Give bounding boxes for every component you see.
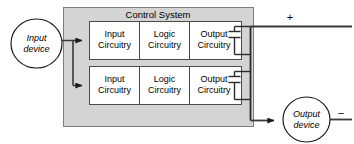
negative-terminal-label: −: [338, 107, 344, 119]
diagram-canvas: Control System Input Circuitry Logic Cir…: [0, 0, 354, 144]
block-logic-circuitry-1-line2: Circuitry: [148, 40, 181, 50]
positive-terminal-label: +: [287, 11, 293, 23]
channel-2-blocks: Input Circuitry Logic Circuitry Output C…: [90, 67, 242, 105]
input-device-label-line1: Input: [26, 33, 47, 43]
block-output-circuitry-2-line1: Output: [200, 74, 228, 84]
output-device-label-line1: Output: [293, 109, 321, 119]
block-input-circuitry-1-line1: Input: [104, 29, 125, 39]
output-device-label-line2: device: [293, 120, 319, 130]
block-logic-circuitry-2-line2: Circuitry: [148, 85, 181, 95]
block-output-circuitry-2-line2: Circuitry: [198, 85, 231, 95]
control-system-title: Control System: [126, 9, 191, 20]
control-system-diagram: Control System Input Circuitry Logic Cir…: [0, 0, 354, 144]
block-input-circuitry-2-line2: Circuitry: [98, 85, 131, 95]
block-output-circuitry-1-line1: Output: [200, 29, 228, 39]
block-input-circuitry-2-line1: Input: [104, 74, 125, 84]
block-logic-circuitry-2-line1: Logic: [154, 74, 176, 84]
input-device-label-line2: device: [23, 44, 49, 54]
block-output-circuitry-1-line2: Circuitry: [198, 40, 231, 50]
block-logic-circuitry-1-line1: Logic: [154, 29, 176, 39]
block-input-circuitry-1-line2: Circuitry: [98, 40, 131, 50]
channel-1-blocks: Input Circuitry Logic Circuitry Output C…: [90, 22, 242, 60]
